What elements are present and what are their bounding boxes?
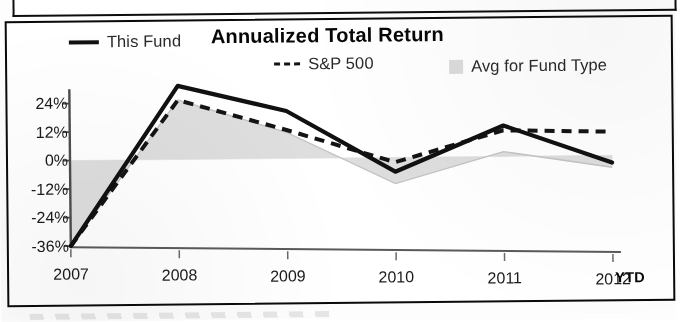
x-axis-tick-label: 2009 bbox=[270, 267, 306, 285]
x-axis-tick-label: 2011 bbox=[487, 269, 522, 287]
x-axis-labels: 200720082009201020112012 bbox=[0, 0, 678, 322]
x-axis-tick-label: 2008 bbox=[162, 266, 198, 284]
scanned-page: Annualized Total Return This Fund S&P 50… bbox=[0, 0, 678, 322]
x-axis-ytd-label: YTD bbox=[615, 269, 645, 285]
x-axis-tick-label: 2010 bbox=[378, 268, 414, 286]
x-axis-tick-label: 2007 bbox=[53, 265, 89, 283]
